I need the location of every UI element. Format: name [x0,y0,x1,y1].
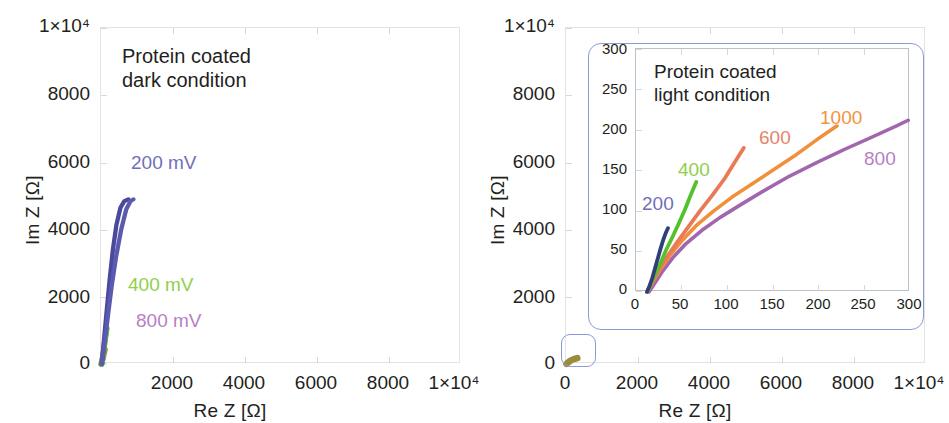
y-tick-label-6000: 6000 [12,151,90,173]
inset-x-tick-label-200: 200 [802,295,834,312]
inset-series-label-400: 400 [678,159,710,181]
inset-series-label-1000: 1000 [820,107,862,129]
x-axis-title-left: Re Z [Ω] [194,400,267,422]
inset-source-highlight [561,334,596,367]
y-tick-label-2000: 2000 [12,286,90,308]
inset-x-tick-label-50: 50 [665,295,695,312]
y-tick-label-0: 0 [477,352,555,374]
inset-y-tick-label-50: 50 [583,240,627,257]
inset-x-tick-label-150: 150 [756,295,788,312]
x-tick-label-2000: 2000 [132,372,212,394]
inset-x-tick-label-0: 0 [620,295,650,312]
panel-note-dark: Protein coated dark condition [122,44,251,93]
y-tick-label-1e4: 1×10⁴ [477,15,555,37]
x-tick-label-6000: 6000 [276,372,356,394]
inset-y-tick-label-150: 150 [583,160,627,177]
inset-series-label-200: 200 [642,193,674,215]
series-label-800mV: 800 mV [136,310,201,332]
x-tick-label-4000: 4000 [204,372,284,394]
inset-x-tick-label-100: 100 [710,295,742,312]
inset-y-tick-label-250: 250 [583,80,627,97]
inset-x-tick-label-300: 300 [893,295,925,312]
x-tick-label-6000: 6000 [741,372,821,394]
x-tick-label-4000: 4000 [669,372,749,394]
panel-dark-condition: Im Z [Ω] 0 2000 4000 6000 8000 1×10⁴ [0,0,466,423]
inset-y-tick-label-100: 100 [583,200,627,217]
y-tick-label-1e4: 1×10⁴ [12,15,90,37]
y-tick-label-2000: 2000 [477,286,555,308]
y-tick-label-0: 0 [12,352,90,374]
inset-series-label-800: 800 [864,148,896,170]
series-label-200mV: 200 mV [131,152,196,174]
inset-plot-frame: Protein coated light condition 1000 600 … [635,48,909,291]
inset-y-tick-label-300: 300 [583,40,627,57]
inset-y-tick-label-200: 200 [583,120,627,137]
inset-series-label-600: 600 [759,127,791,149]
inset-note: Protein coated light condition [654,61,777,107]
x-axis-title-right: Re Z [Ω] [659,400,732,422]
x-tick-label-2000: 2000 [597,372,677,394]
x-tick-label-1e4: 1×10⁴ [879,372,949,394]
panel-light-condition: Im Z [Ω] 0 2000 4000 6000 8000 1×10⁴ [465,0,931,423]
series-label-400mV: 400 mV [128,274,193,296]
y-tick-label-8000: 8000 [12,83,90,105]
inset-x-tick-label-250: 250 [847,295,879,312]
y-tick-label-8000: 8000 [477,83,555,105]
x-tick-label-0: 0 [525,372,605,394]
y-tick-label-6000: 6000 [477,151,555,173]
y-tick-label-4000: 4000 [12,218,90,240]
inset-callout-box: 300 250 200 150 100 50 0 [588,43,924,330]
y-tick-label-4000: 4000 [477,218,555,240]
